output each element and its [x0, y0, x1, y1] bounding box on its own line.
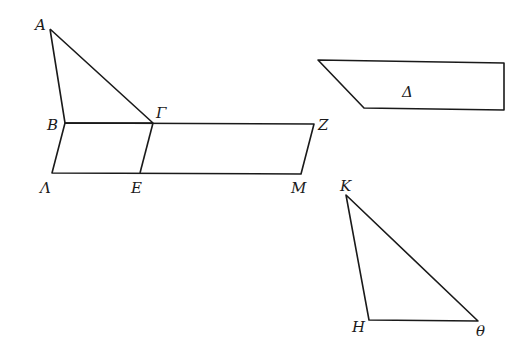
triangle-kht — [346, 195, 478, 321]
triangle-abg — [50, 29, 153, 123]
label-h: H — [351, 318, 366, 336]
label-m: M — [290, 179, 307, 197]
geometry-figure: A B Γ Z Λ E M Δ K H θ — [0, 0, 528, 357]
label-z: Z — [317, 116, 329, 134]
label-k: K — [339, 177, 352, 195]
label-gamma: Γ — [155, 104, 167, 122]
label-a: A — [33, 16, 46, 34]
label-b: B — [46, 116, 58, 134]
label-delta: Δ — [401, 83, 413, 101]
parallelogram-bzml — [52, 123, 314, 174]
label-theta: θ — [476, 322, 485, 340]
segment-ge — [140, 123, 153, 173]
label-lambda: Λ — [38, 179, 51, 197]
label-e: E — [130, 179, 142, 197]
